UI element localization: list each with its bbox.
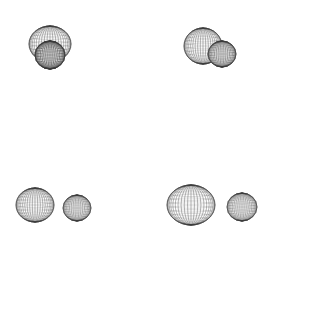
sphere-light [227, 193, 257, 221]
panel-bottom-right [0, 0, 325, 333]
panel-bottom-right-graphic [0, 0, 325, 333]
sphere-light [167, 185, 215, 225]
figure-canvas [0, 0, 325, 333]
